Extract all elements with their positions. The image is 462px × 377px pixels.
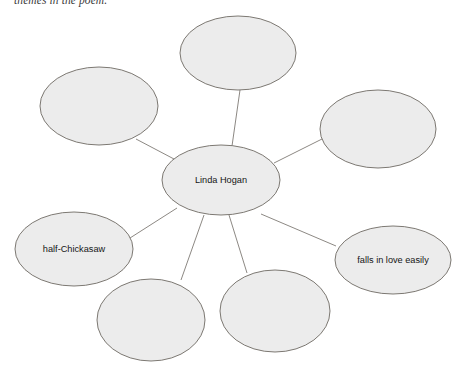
connector-line-node-bottom-right <box>229 215 247 273</box>
node-bottom-left[interactable] <box>97 279 205 361</box>
node-top[interactable] <box>180 16 296 90</box>
node-label-text: falls in love easily <box>357 255 429 265</box>
connector-line-node-left <box>130 208 177 238</box>
node-ellipse-shape[interactable] <box>180 16 296 90</box>
concept-map-canvas: half-Chickasawfalls in love easilyLinda … <box>0 0 462 377</box>
node-ellipse-shape[interactable] <box>40 67 158 145</box>
node-ellipse-shape[interactable] <box>220 270 330 352</box>
node-left[interactable]: half-Chickasaw <box>15 212 133 286</box>
node-ellipse-shape[interactable] <box>320 90 436 168</box>
connector-line-node-bottom-left <box>181 215 204 280</box>
node-label-text: half-Chickasaw <box>43 244 106 254</box>
node-ellipse-shape[interactable] <box>97 279 205 361</box>
concept-nodes-group: half-Chickasawfalls in love easilyLinda … <box>15 16 451 361</box>
node-upper-right[interactable] <box>320 90 436 168</box>
node-upper-left[interactable] <box>40 67 158 145</box>
node-bottom-right[interactable] <box>220 270 330 352</box>
connector-line-node-upper-right <box>274 139 322 163</box>
node-right[interactable]: falls in love easily <box>335 226 451 294</box>
connector-line-node-top <box>232 90 240 146</box>
center-node[interactable]: Linda Hogan <box>162 145 280 215</box>
node-label-text: Linda Hogan <box>195 175 247 185</box>
connector-line-node-upper-left <box>136 139 174 159</box>
connector-line-node-right <box>261 214 336 246</box>
